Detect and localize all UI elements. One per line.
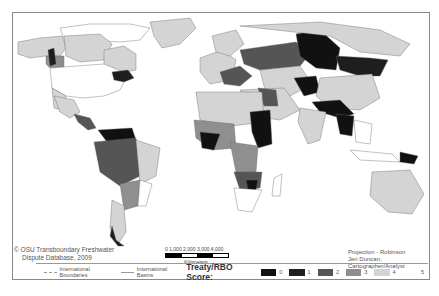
greenland <box>150 18 196 48</box>
legend-label-2: 2 <box>336 269 339 275</box>
swatch-2 <box>318 269 333 276</box>
swatch-5 <box>403 269 418 276</box>
swatch-0 <box>261 269 276 276</box>
central-america <box>74 114 96 130</box>
scandinavia <box>212 30 244 56</box>
legend-title: Treaty/RBO Score: <box>186 262 254 282</box>
australia <box>370 170 424 214</box>
india <box>298 108 326 144</box>
basin-mekong <box>336 114 354 136</box>
usa <box>50 64 128 98</box>
legend-label-1: 1 <box>308 269 311 275</box>
basin-line-icon <box>121 272 134 273</box>
basin-zambezi-black <box>246 180 258 190</box>
basin-st-lawrence <box>112 70 134 82</box>
swatch-1 <box>289 269 304 276</box>
basin-nile-dark <box>250 110 272 148</box>
credit-line-1: © OSU Transboundary Freshwater <box>14 246 114 254</box>
legend-label-3: 3 <box>364 269 367 275</box>
swatch-3 <box>346 269 361 276</box>
basin-alaska-yukon <box>18 36 66 58</box>
legend-label-5: 5 <box>421 269 424 275</box>
basin-congo <box>230 142 258 172</box>
projection-label: Projection - Robinson <box>348 249 439 256</box>
southeast-asia <box>354 120 372 144</box>
legend-label-4: 4 <box>393 269 396 275</box>
data-credit: © OSU Transboundary Freshwater Dispute D… <box>14 246 114 262</box>
basin-amur <box>336 56 388 76</box>
brazil-east <box>136 140 160 184</box>
southern-africa <box>234 188 262 212</box>
map-legend: International Boundaries International B… <box>36 263 428 280</box>
legend-basins-label: International Basins <box>137 266 180 278</box>
swatch-4 <box>374 269 389 276</box>
boundary-line-icon <box>44 272 57 273</box>
indonesia <box>350 150 400 162</box>
scale-graphic <box>165 253 229 258</box>
basin-amazon <box>94 138 140 186</box>
scale-ticks: 0 1,000 2,000 3,000 4,000 <box>165 246 229 252</box>
madagascar <box>272 174 282 196</box>
legend-boundaries-label: International Boundaries <box>60 266 114 278</box>
new-guinea-dark <box>400 152 418 164</box>
basin-la-plata-white <box>138 180 152 206</box>
credit-line-2: Dispute Database, 2009 <box>14 254 114 262</box>
legend-label-0: 0 <box>279 269 282 275</box>
